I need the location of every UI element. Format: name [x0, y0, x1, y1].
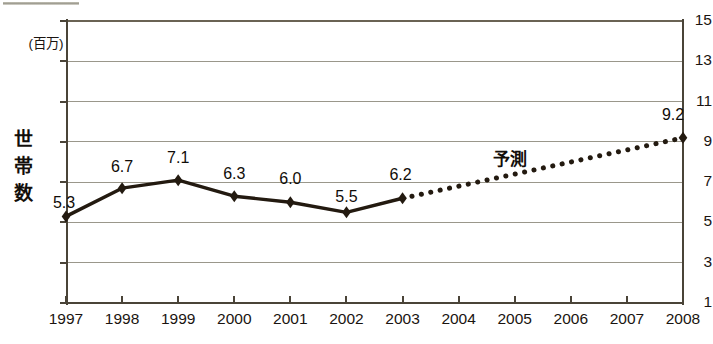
data-label-1998: 6.7 [92, 158, 152, 176]
data-label-1999: 7.1 [148, 149, 208, 167]
data-point-marker-2001 [286, 196, 295, 208]
data-label-2008: 9.2 [643, 106, 703, 124]
series-line-2 [403, 138, 683, 198]
data-label-2000: 6.3 [204, 165, 264, 183]
data-point-marker-1998 [118, 182, 127, 194]
data-label-2001: 6.0 [260, 170, 320, 188]
data-label-2002: 5.5 [316, 188, 376, 206]
data-label-2003: 6.2 [371, 166, 431, 184]
data-point-marker-1999 [174, 174, 183, 186]
annotation-forecast: 予測 [493, 150, 527, 169]
data-point-marker-2000 [230, 190, 239, 202]
data-label-1997: 5.3 [34, 194, 94, 212]
data-point-marker-2002 [342, 206, 351, 218]
data-point-marker-2008 [679, 132, 688, 144]
